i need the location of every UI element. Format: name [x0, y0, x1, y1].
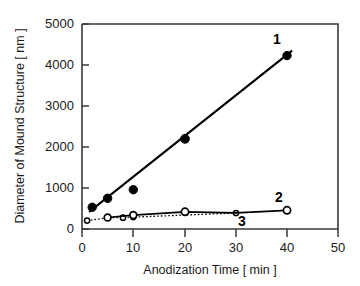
- y-tick-label-2000: 2000: [45, 139, 74, 154]
- x-axis-ticks: [82, 229, 338, 237]
- series-1-point: [283, 51, 291, 59]
- y-tick-label-3000: 3000: [45, 98, 74, 113]
- x-tick-label-50: 50: [331, 240, 345, 255]
- y-tick-label-4000: 4000: [45, 57, 74, 72]
- x-axis-title: Anodization Time [ min ]: [143, 263, 276, 277]
- x-tick-label-0: 0: [78, 240, 85, 255]
- series-1-point: [88, 203, 96, 211]
- series-2-point: [104, 214, 111, 221]
- series-1-point: [129, 186, 137, 194]
- x-tick-label-30: 30: [229, 240, 243, 255]
- series-1-fit-line: [90, 51, 292, 211]
- x-tick-label-40: 40: [280, 240, 294, 255]
- x-tick-label-10: 10: [126, 240, 140, 255]
- y-axis-title: Diameter of Mound Structure [ nm ]: [13, 28, 27, 223]
- y-axis-ticks: [82, 24, 89, 229]
- series-2-point: [181, 208, 188, 215]
- chart-figure: 0 1000 2000 3000 4000 5000 0 10 20 30 40…: [0, 0, 360, 286]
- series-1: [88, 51, 292, 211]
- y-tick-label-0: 0: [67, 221, 74, 236]
- series-1-label: 1: [273, 31, 281, 47]
- series-1-point: [103, 194, 111, 202]
- series-2-point: [283, 207, 290, 214]
- series-1-point: [181, 134, 190, 143]
- y-tick-label-5000: 5000: [45, 16, 74, 31]
- y-tick-label-1000: 1000: [45, 180, 74, 195]
- series-2-point: [130, 212, 137, 219]
- scatter-plot: 0 1000 2000 3000 4000 5000 0 10 20 30 40…: [0, 0, 360, 286]
- series-3-point: [85, 218, 90, 223]
- x-tick-label-20: 20: [178, 240, 192, 255]
- series-3-label: 3: [238, 213, 246, 229]
- series-2-label: 2: [275, 189, 283, 205]
- series-2: [104, 207, 290, 221]
- plot-frame: [82, 24, 338, 229]
